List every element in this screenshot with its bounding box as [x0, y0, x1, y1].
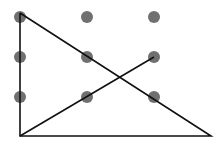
- triangle-path: [20, 13, 211, 136]
- dot: [148, 11, 160, 23]
- nine-dots-diagram: [0, 0, 224, 146]
- diagram-canvas: [0, 0, 224, 146]
- dot: [81, 11, 93, 23]
- diagonal-line: [20, 57, 154, 136]
- solution-lines: [20, 13, 211, 136]
